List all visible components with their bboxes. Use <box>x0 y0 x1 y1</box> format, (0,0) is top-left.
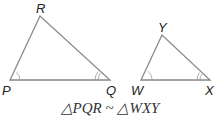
angle-q-mark-2 <box>95 72 98 81</box>
vertex-label-p: P <box>2 83 11 98</box>
triangle-pqr <box>10 16 110 80</box>
triangle-wxy <box>141 35 210 80</box>
angle-w-mark <box>148 71 153 80</box>
vertex-label-y: Y <box>158 20 168 35</box>
vertex-label-x: X <box>204 83 215 98</box>
similarity-caption: △PQR ~ △WXY <box>60 100 161 116</box>
angle-p-mark <box>17 73 21 81</box>
similar-triangles-diagram: R P Q Y W X △PQR ~ △WXY <box>0 0 220 121</box>
vertex-label-q: Q <box>106 83 116 98</box>
vertex-label-w: W <box>131 83 145 98</box>
angle-x-mark-2 <box>197 73 200 81</box>
angle-q-mark-1 <box>98 73 101 80</box>
angle-x-mark-1 <box>200 74 202 80</box>
vertex-label-r: R <box>36 1 45 16</box>
